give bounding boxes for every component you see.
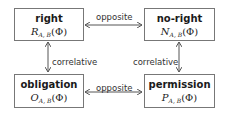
node-symbol: NA, B(Φ) [145, 26, 214, 41]
node-symbol: PA, B(Φ) [145, 92, 214, 107]
node-title: permission [145, 79, 214, 91]
edge-label-bottom: opposite [96, 83, 133, 93]
node-obligation: obligation OA, B(Φ) [14, 74, 84, 108]
node-permission: permission PA, B(Φ) [144, 74, 215, 108]
edge-label-top: opposite [96, 12, 133, 22]
node-title: right [15, 13, 83, 25]
node-title: no-right [145, 13, 214, 25]
node-symbol: OA, B(Φ) [15, 92, 83, 107]
node-no-right: no-right NA, B(Φ) [144, 8, 215, 41]
edge-label-right: correlative [133, 57, 178, 67]
node-symbol: RA, B(Φ) [15, 26, 83, 41]
edge-label-left: correlative [52, 57, 97, 67]
node-title: obligation [15, 79, 83, 91]
node-right: right RA, B(Φ) [14, 8, 84, 41]
